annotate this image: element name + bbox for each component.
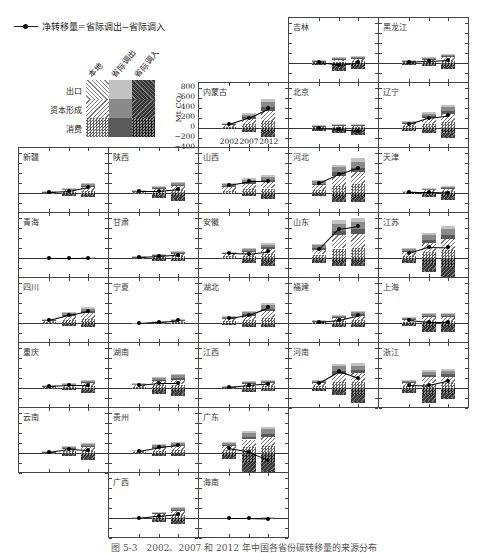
bar-2002: [132, 473, 146, 538]
legend-swatch-local-capital: [86, 99, 109, 118]
y-tick: [199, 398, 202, 399]
segment-in-export: [222, 459, 236, 460]
net-transfer-point: [337, 172, 341, 176]
segment-out-capital: [152, 378, 166, 380]
segment-out-export: [332, 165, 346, 168]
y-tick: [199, 488, 202, 489]
y-tick: [285, 528, 288, 529]
segment-out-capital: [81, 444, 95, 446]
legend-swatch-out-capital: [109, 99, 132, 118]
net-transfer-point: [47, 318, 51, 322]
segment-out-export: [332, 364, 346, 366]
segment-out-export: [81, 380, 95, 381]
segment-out-export: [422, 112, 436, 114]
net-transfer-point: [317, 247, 321, 251]
y-tick: [19, 313, 22, 314]
segment-out-export: [242, 381, 256, 382]
segment-out-export: [441, 369, 455, 371]
segment-out-export: [222, 442, 236, 443]
net-transfer-point: [407, 190, 411, 194]
y-tick: [379, 378, 382, 379]
y-tick: [109, 228, 112, 229]
y-tick: [19, 443, 22, 444]
net-transfer-point: [356, 224, 360, 228]
y-axis-label: Mt CO₂: [174, 93, 183, 123]
y-tick: [109, 488, 112, 489]
net-transfer-point: [446, 245, 450, 249]
y-tick: [109, 153, 112, 154]
net-transfer-point: [317, 126, 321, 130]
segment-in-export: [402, 131, 416, 132]
y-tick: [19, 398, 22, 399]
bar-2002: [132, 408, 146, 473]
panel-江西: 江西: [198, 342, 289, 408]
y-tick: [199, 228, 202, 229]
y-tick: [375, 408, 378, 409]
y-tick: [199, 378, 202, 379]
y-tick: [289, 108, 292, 109]
y-tick: [289, 358, 292, 359]
panel-新疆: 新疆: [18, 147, 109, 213]
y-tick: [465, 73, 468, 74]
segment-in-export: [171, 524, 185, 525]
segment-out-capital: [222, 443, 236, 445]
bar-2007: [242, 213, 256, 278]
segment-out-export: [261, 427, 275, 430]
y-tick: [19, 358, 22, 359]
segment-out-export: [402, 380, 416, 381]
panel-广西: 广西: [108, 472, 199, 538]
segment-out-export: [242, 113, 256, 115]
y-tick: [379, 348, 382, 349]
net-transfer-point: [266, 382, 270, 386]
y-tick-label: −400: [167, 142, 195, 151]
y-tick: [289, 228, 292, 229]
y-tick: [285, 498, 288, 499]
y-tick: [379, 33, 382, 34]
segment-out-capital: [422, 235, 436, 240]
segment-out-export: [422, 370, 436, 372]
net-transfer-point: [427, 116, 431, 120]
panel-province-name: 青海: [23, 216, 39, 227]
y-tick: [379, 218, 382, 219]
y-tick: [199, 368, 202, 369]
segment-in-export: [152, 393, 166, 394]
bar-2002: [312, 83, 326, 148]
bar-2002: [42, 213, 56, 278]
bar-2007: [332, 213, 346, 278]
segment-out-export: [351, 56, 365, 57]
bar-2002: [222, 408, 236, 473]
panel-河北: 河北: [288, 147, 379, 213]
y-tick: [379, 183, 382, 184]
segment-in-export: [422, 401, 436, 403]
net-transfer-point: [137, 255, 141, 259]
net-transfer-point: [137, 383, 141, 387]
net-transfer-point: [157, 514, 161, 518]
y-tick: [109, 248, 112, 249]
segment-out-capital: [441, 314, 455, 316]
net-transfer-point: [337, 318, 341, 322]
legend-net-label: 净转移量=省际调出−省际调入: [42, 20, 165, 33]
y-tick: [289, 138, 292, 139]
x-tick-label: 2012: [259, 137, 278, 146]
y-tick: [109, 433, 112, 434]
panel-province-name: 广西: [113, 476, 129, 487]
segment-out-export: [171, 182, 185, 183]
panel-province-name: 河北: [293, 151, 309, 162]
net-transfer-line: [139, 191, 159, 192]
segment-out-export: [332, 57, 346, 58]
segment-in-export: [402, 262, 416, 263]
y-tick: [379, 238, 382, 239]
x-tick-label: 2007: [240, 137, 259, 146]
bar-2012: [441, 343, 455, 408]
segment-in-export: [351, 134, 365, 135]
y-tick: [19, 218, 22, 219]
segment-out-export: [422, 188, 436, 189]
bar-2002: [222, 213, 236, 278]
y-tick: [465, 43, 468, 44]
segment-in-export: [171, 261, 185, 262]
y-tick: [109, 423, 112, 424]
panel-province-name: 新疆: [23, 151, 39, 162]
bar-2007: [242, 408, 256, 473]
net-transfer-point: [247, 116, 251, 120]
bar-2012: [351, 83, 365, 148]
